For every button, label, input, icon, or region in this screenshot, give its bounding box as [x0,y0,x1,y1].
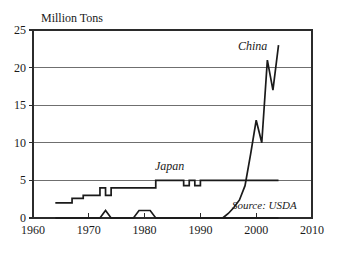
chart-title: Million Tons [41,11,103,25]
y-tick-label-15: 15 [14,98,26,112]
y-tick-label-5: 5 [20,173,26,187]
source-note: Source: USDA [232,199,297,211]
chart-canvas: Million Tons 0510152025 1960197019801990… [0,0,338,253]
y-tick-label-20: 20 [14,61,26,75]
y-tick-label-25: 25 [14,23,26,37]
japan-series-label: Japan [155,159,184,173]
chart-figure: Million Tons 0510152025 1960197019801990… [0,0,338,253]
x-tick-label-1980: 1980 [133,223,157,237]
x-tick-label-2010: 2010 [300,223,324,237]
x-tick-label-1990: 1990 [188,223,212,237]
x-tick-label-2000: 2000 [244,223,268,237]
x-tick-label-1970: 1970 [77,223,101,237]
x-tick-label-1960: 1960 [21,223,45,237]
chart-background [0,0,338,253]
y-tick-label-10: 10 [14,136,26,150]
china-series-label: China [238,39,267,53]
